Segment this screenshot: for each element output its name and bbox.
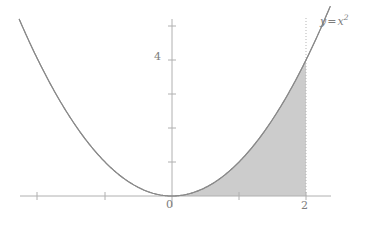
chart-figure: 4 0 2 y=x2 [0,0,373,225]
y-axis-label-4: 4 [154,50,161,63]
plot-canvas [0,0,373,225]
x-axis-label-2: 2 [301,199,308,212]
shaded-area-under-curve [172,60,306,196]
curve-label-exponent: 2 [344,13,349,22]
curve-label-equals: = [326,15,337,28]
origin-label: 0 [166,198,173,211]
curve-equation-label: y=x2 [320,13,348,28]
